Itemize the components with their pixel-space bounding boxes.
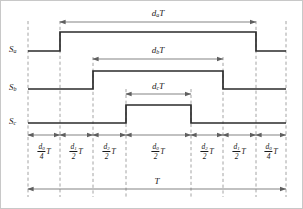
interval-label-2: d1 2 T (69, 143, 82, 160)
interval-label-4-suffix: T (160, 147, 165, 156)
interval-label-6-fraction: d1 2 (232, 143, 240, 160)
interval-label-1: d0 4 T (37, 143, 50, 160)
interval-label-7-fraction: d0 4 (264, 143, 272, 160)
signal-label-sc-sub: c (14, 120, 17, 126)
interval-label-3-numerator: d2 (102, 143, 110, 151)
span-label-dc: dcT (152, 82, 164, 91)
interval-label-5-fraction: d2 2 (200, 143, 208, 160)
interval-label-4-denominator: 2 (151, 153, 159, 161)
timing-diagram-canvas (1, 1, 303, 209)
timing-diagram: Sa Sb Sc daT dbT dcT d0 4 T d1 2 T d2 (0, 0, 303, 209)
signal-label-sa-sub: a (14, 48, 17, 54)
interval-label-5-suffix: T (209, 147, 214, 156)
interval-label-6: d1 2 T (232, 143, 245, 160)
signal-label-sb: Sb (9, 83, 17, 92)
interval-label-2-suffix: T (78, 147, 83, 156)
interval-label-3-fraction: d2 2 (102, 143, 110, 160)
interval-label-5-numerator: d2 (200, 143, 208, 151)
interval-label-2-numerator: d1 (69, 143, 77, 151)
span-label-db: dbT (152, 46, 165, 55)
interval-label-3: d2 2 T (102, 143, 115, 160)
signal-label-sa: Sa (9, 45, 17, 54)
span-label-da: daT (152, 9, 165, 18)
interval-label-7: d0 4 T (264, 143, 277, 160)
period-label: T (154, 177, 159, 186)
interval-label-5: d2 2 T (200, 143, 213, 160)
interval-label-4-numerator: d0 (151, 143, 159, 151)
interval-label-3-denominator: 2 (102, 153, 110, 161)
interval-label-1-denominator: 4 (37, 153, 45, 161)
interval-label-1-suffix: T (46, 147, 51, 156)
signal-label-sc: Sc (9, 117, 16, 126)
span-label-dc-suffix: T (159, 81, 164, 91)
interval-label-1-fraction: d0 4 (37, 143, 45, 160)
span-label-da-suffix: T (159, 8, 164, 18)
interval-label-7-denominator: 4 (264, 153, 272, 161)
interval-label-2-denominator: 2 (69, 153, 77, 161)
interval-label-6-suffix: T (241, 147, 246, 156)
interval-label-4: d0 2 T (151, 143, 164, 160)
interval-label-1-numerator: d0 (37, 143, 45, 151)
interval-label-3-suffix: T (111, 147, 116, 156)
interval-label-7-numerator: d0 (264, 143, 272, 151)
interval-label-6-denominator: 2 (232, 153, 240, 161)
interval-label-5-denominator: 2 (200, 153, 208, 161)
interval-label-7-suffix: T (273, 147, 278, 156)
waveform-sc (28, 105, 286, 123)
span-label-db-suffix: T (159, 45, 164, 55)
signal-label-sb-sub: b (14, 86, 17, 92)
interval-label-2-fraction: d1 2 (69, 143, 77, 160)
interval-label-6-numerator: d1 (232, 143, 240, 151)
interval-label-4-fraction: d0 2 (151, 143, 159, 160)
